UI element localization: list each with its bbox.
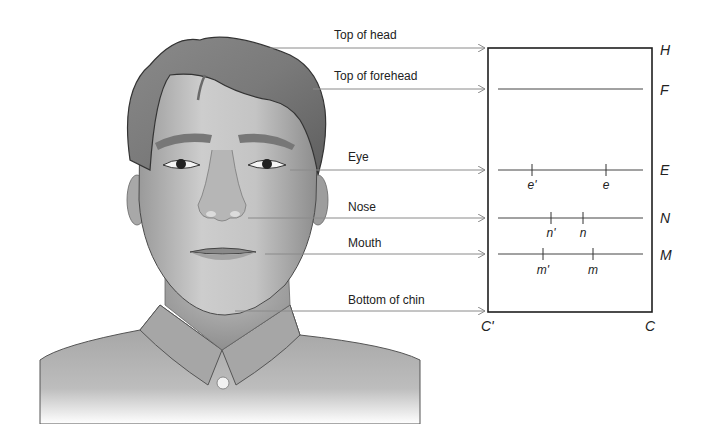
tick-label-m: m <box>588 263 598 277</box>
tick-label-n-prime: n' <box>547 226 556 240</box>
label-top-of-head: Top of head <box>334 28 397 42</box>
letter-H: H <box>660 42 670 58</box>
face-proportion-diagram: Top of head Top of forehead Eye Nose Mou… <box>0 0 704 424</box>
label-mouth: Mouth <box>348 236 381 250</box>
letter-M: M <box>660 247 672 263</box>
tick-label-e-prime: e' <box>528 178 537 192</box>
letter-F: F <box>660 82 669 98</box>
label-top-of-forehead: Top of forehead <box>334 69 417 83</box>
letter-C: C <box>645 318 655 334</box>
label-nose: Nose <box>348 200 376 214</box>
letter-C-prime: C' <box>481 318 494 334</box>
letter-N: N <box>660 210 670 226</box>
tick-label-e: e <box>603 178 610 192</box>
face-bounding-rect <box>488 48 652 312</box>
tick-label-m-prime: m' <box>537 263 549 277</box>
letter-E: E <box>660 162 669 178</box>
label-eye: Eye <box>348 150 369 164</box>
tick-label-n: n <box>580 226 587 240</box>
label-bottom-of-chin: Bottom of chin <box>348 293 425 307</box>
